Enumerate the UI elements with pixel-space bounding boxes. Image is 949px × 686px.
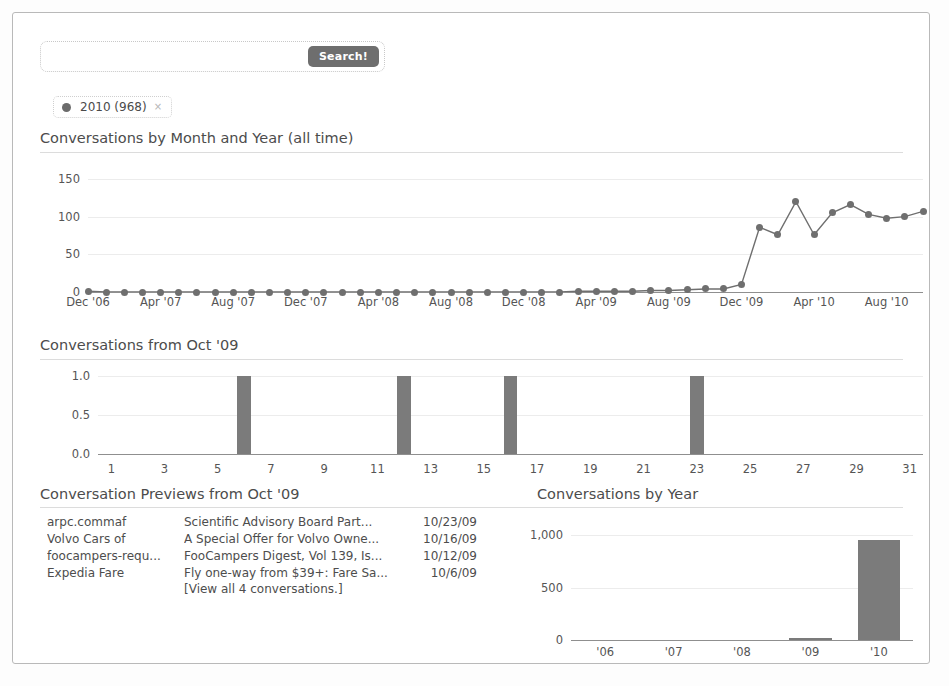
data-point: [611, 288, 618, 295]
chart-conversations-from-oct: 0.00.51.0 135791113151719212325272931: [98, 376, 923, 454]
bar: [397, 376, 411, 454]
chart-conversations-by-month: 050100150 Dec '06Apr '07Aug '07Dec '07Ap…: [88, 179, 923, 292]
conversation-previews-list: arpc.commafScientific Advisory Board Par…: [47, 513, 487, 598]
app-page: Search! 2010 (968) × Conversations by Mo…: [0, 0, 949, 686]
x-axis-tick-label: Aug '07: [211, 295, 255, 309]
x-axis-line: [98, 454, 923, 455]
data-point: [556, 289, 563, 296]
search-input[interactable]: [47, 46, 303, 69]
x-axis-tick-label: 21: [636, 462, 651, 476]
preview-sender: Expedia Fare: [47, 566, 184, 580]
bar: [237, 376, 251, 454]
x-axis-tick-label: 7: [267, 462, 274, 476]
data-point: [847, 201, 854, 208]
line-series: [88, 179, 923, 292]
y-axis-tick-label: 1.0: [72, 369, 90, 383]
conversation-preview-row[interactable]: Expedia FareFly one-way from $39+: Fare …: [47, 564, 487, 581]
divider-oct: [40, 359, 903, 360]
conversation-preview-row[interactable]: arpc.commafScientific Advisory Board Par…: [47, 513, 487, 530]
section-title-conversations-from-oct: Conversations from Oct '09: [40, 337, 239, 353]
x-axis-tick-label: 17: [530, 462, 545, 476]
y-axis-tick-label: 150: [58, 172, 80, 186]
x-axis-tick-label: 9: [321, 462, 328, 476]
x-axis-tick-label: '08: [733, 645, 751, 659]
chip-dot-icon: [62, 103, 71, 112]
x-axis-tick-label: 13: [423, 462, 438, 476]
x-axis-tick-label: 15: [477, 462, 492, 476]
x-axis-line: [571, 640, 913, 641]
data-point: [865, 211, 872, 218]
preview-date: 10/6/09: [399, 566, 477, 580]
section-title-conversation-previews: Conversation Previews from Oct '09: [40, 486, 300, 502]
x-axis-tick-label: Aug '08: [429, 295, 473, 309]
x-axis-tick-label: Apr '10: [793, 295, 834, 309]
close-icon[interactable]: ×: [154, 102, 162, 112]
gridline: [571, 535, 913, 536]
data-point: [575, 288, 582, 295]
conversation-preview-row[interactable]: foocampers-requ...FooCampers Digest, Vol…: [47, 547, 487, 564]
preview-subject: Fly one-way from $39+: Fare Sa...: [184, 566, 399, 580]
preview-date: 10/12/09: [399, 549, 477, 563]
preview-subject: A Special Offer for Volvo Owne...: [184, 532, 399, 546]
search-button[interactable]: Search!: [308, 46, 379, 67]
content-frame: Search! 2010 (968) × Conversations by Mo…: [12, 12, 930, 664]
x-axis-tick-label: Apr '07: [140, 295, 181, 309]
x-axis-tick-label: Dec '09: [720, 295, 764, 309]
x-axis-tick-label: 27: [796, 462, 811, 476]
search-bar[interactable]: Search!: [40, 41, 385, 72]
x-axis-tick-label: Dec '06: [66, 295, 110, 309]
data-point: [593, 288, 600, 295]
x-axis-tick-label: 29: [849, 462, 864, 476]
preview-date: 10/23/09: [399, 515, 477, 529]
bar: [504, 376, 518, 454]
divider-month: [40, 152, 903, 153]
x-axis-tick-label: 5: [214, 462, 221, 476]
x-axis-tick-label: '09: [801, 645, 819, 659]
preview-sender: arpc.commaf: [47, 515, 184, 529]
data-point: [920, 208, 927, 215]
section-title-conversations-by-year: Conversations by Year: [537, 486, 698, 502]
preview-date: 10/16/09: [399, 532, 477, 546]
data-point: [811, 231, 818, 238]
section-title-conversations-by-month: Conversations by Month and Year (all tim…: [40, 130, 353, 146]
x-axis-tick-label: Apr '09: [576, 295, 617, 309]
y-axis-tick-label: 500: [541, 581, 563, 595]
x-axis-tick-label: 31: [902, 462, 917, 476]
bar: [690, 376, 704, 454]
data-point: [411, 289, 418, 296]
view-all-conversations-link[interactable]: [View all 4 conversations.]: [184, 581, 487, 598]
x-axis-tick-label: '10: [870, 645, 888, 659]
data-point: [629, 288, 636, 295]
x-axis-tick-label: 3: [161, 462, 168, 476]
y-axis-tick-label: 0.5: [72, 408, 90, 422]
filter-chip-label: 2010 (968): [80, 100, 147, 114]
x-axis-tick-label: '06: [596, 645, 614, 659]
data-point: [484, 289, 491, 296]
x-axis-tick-label: 23: [689, 462, 704, 476]
y-axis-tick-label: 50: [65, 247, 80, 261]
x-axis-tick-label: 11: [370, 462, 385, 476]
bar: [789, 638, 831, 640]
conversation-preview-row[interactable]: Volvo Cars ofA Special Offer for Volvo O…: [47, 530, 487, 547]
data-point: [85, 288, 92, 295]
x-axis-tick-label: Dec '08: [502, 295, 546, 309]
data-point: [121, 289, 128, 296]
preview-subject: FooCampers Digest, Vol 139, Is...: [184, 549, 399, 563]
x-axis-tick-label: Aug '09: [647, 295, 691, 309]
preview-subject: Scientific Advisory Board Part...: [184, 515, 399, 529]
preview-sender: foocampers-requ...: [47, 549, 184, 563]
x-axis-tick-label: 1: [108, 462, 115, 476]
data-point: [883, 215, 890, 222]
x-axis-tick-label: Dec '07: [284, 295, 328, 309]
y-axis-tick-label: 0.0: [72, 447, 90, 461]
x-axis-tick-label: 25: [743, 462, 758, 476]
filter-chip-2010[interactable]: 2010 (968) ×: [53, 96, 172, 118]
data-point: [339, 289, 346, 296]
y-axis-tick-label: 1,000: [530, 528, 563, 542]
x-axis-tick-label: 19: [583, 462, 598, 476]
data-point: [266, 289, 273, 296]
data-point: [193, 289, 200, 296]
x-axis-tick-label: Aug '10: [865, 295, 909, 309]
x-axis-tick-label: '07: [665, 645, 683, 659]
bar: [858, 540, 900, 640]
